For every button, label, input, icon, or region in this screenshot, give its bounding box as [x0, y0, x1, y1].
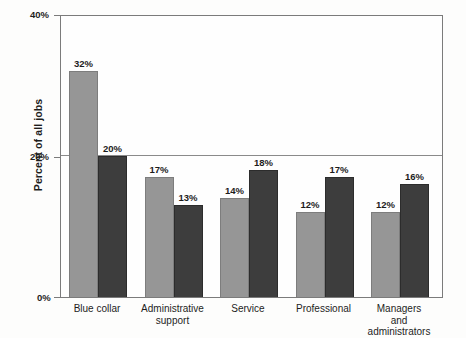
bar-value-label-5-series-1: 12% [367, 199, 404, 210]
bar-value-label-5-series-2: 16% [396, 171, 433, 182]
bar-5-series-1 [371, 212, 400, 297]
bar-4-series-1 [296, 212, 325, 297]
bar-value-label-3-series-1: 14% [216, 185, 253, 196]
bar-value-label-4-series-1: 12% [292, 199, 329, 210]
bar-3-series-1 [220, 198, 249, 297]
bar-5-series-2 [400, 184, 429, 297]
bar-value-label-4-series-2: 17% [321, 164, 358, 175]
bar-value-label-1-series-2: 20% [94, 143, 131, 154]
bar-value-label-1-series-1: 32% [65, 58, 102, 69]
bar-value-label-3-series-2: 18% [245, 157, 282, 168]
bar-value-label-2-series-2: 13% [170, 192, 207, 203]
bar-4-series-2 [325, 177, 354, 297]
bar-chart-figure: Percent of all jobs 40% 20% 0% 32%20%17%… [0, 0, 466, 338]
bar-value-label-2-series-1: 17% [141, 164, 178, 175]
category-label-5: Managers and administrators [349, 303, 449, 338]
y-axis-title: Percent of all jobs [32, 60, 44, 230]
plot-area: 32%20%17%13%14%18%12%17%12%16% [60, 15, 443, 298]
bar-1-series-2 [98, 156, 127, 298]
bar-2-series-2 [174, 205, 203, 297]
bar-1-series-1 [69, 71, 98, 297]
bar-3-series-2 [249, 170, 278, 297]
